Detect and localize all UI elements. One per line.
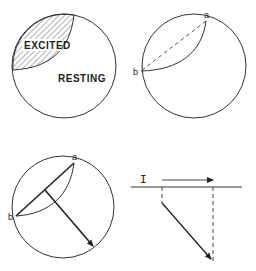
current-label: I — [140, 173, 147, 186]
panel-dipole: a b — [8, 152, 114, 258]
point-b-label: b — [8, 212, 13, 222]
dipole-vector-arrow — [162, 203, 211, 259]
panel-chord: a b — [133, 10, 246, 118]
diagram-canvas: EXCITED RESTING a b a b I — [0, 0, 256, 271]
wavefront-arc — [141, 21, 206, 71]
point-b-label: b — [133, 67, 138, 77]
dipole-vector-arrow — [45, 190, 93, 246]
excited-label: EXCITED — [24, 40, 71, 51]
cell-circle — [142, 14, 246, 118]
resting-label: RESTING — [58, 73, 106, 84]
point-a-label: a — [204, 10, 209, 20]
chord-dashed — [141, 21, 206, 71]
cell-circle — [12, 156, 114, 258]
panel-excited-resting: EXCITED RESTING — [12, 14, 116, 118]
point-a-label: a — [72, 152, 77, 162]
panel-projection: I — [131, 173, 242, 261]
